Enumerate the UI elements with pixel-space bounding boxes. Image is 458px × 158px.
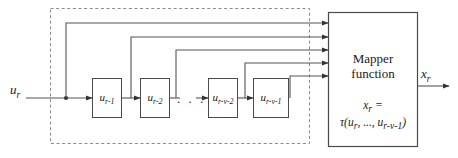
input-signal-label: ur: [10, 83, 20, 100]
delay-line-boundary: [51, 9, 310, 144]
delay-chain-ellipsis: . . .: [177, 91, 206, 107]
delay-block-3-label: ur-v-2: [206, 92, 240, 106]
mapper-function-title: Mapper function: [328, 52, 418, 81]
mapper-equation-line-1: xr =: [318, 98, 428, 115]
mapper-title-line-1: Mapper: [328, 52, 418, 67]
output-signal-label: xr: [421, 67, 430, 84]
mapper-equation-line-2: τ(ur, ..., ur-v-1): [318, 115, 428, 132]
delay-block-4-label: ur-v-1: [252, 92, 290, 106]
block-diagram-figure: ur ur-1 ur-2 ur-v-2 ur-v-1 . . . Mapper …: [0, 0, 458, 158]
mapper-equation: xr = τ(ur, ..., ur-v-1): [318, 98, 428, 133]
delay-block-1-label: ur-1: [92, 92, 122, 106]
mapper-title-line-2: function: [328, 67, 418, 82]
delay-block-2-label: ur-2: [140, 92, 170, 106]
